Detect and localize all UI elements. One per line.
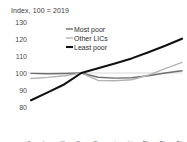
x-axis-tick-label: 2021 [109, 141, 116, 142]
x-axis-tick-label: 2017 [42, 141, 49, 142]
chart-figure: Index, 100 = 2019 8090100110120130201620… [0, 0, 187, 142]
y-axis-tick-label: 90 [19, 87, 27, 94]
chart-plot-area: 8090100110120130201620172018201920202021… [0, 0, 187, 142]
y-axis-tick-label: 120 [15, 36, 27, 43]
x-axis-tick-label: 2019 [75, 141, 82, 142]
x-axis-tick-label: 2022 [126, 141, 133, 142]
y-axis-tick-label: 130 [15, 19, 27, 26]
y-axis-tick-label: 80 [19, 104, 27, 111]
y-axis-tick-label: 100 [15, 70, 27, 77]
legend-label: Other LICs [74, 35, 108, 42]
x-axis-tick-label: 2024f [159, 141, 166, 142]
x-axis-tick-label: 2020 [92, 141, 99, 142]
x-axis-tick-label: 2023f [142, 141, 149, 142]
legend-label: Most poor [74, 26, 106, 34]
x-axis-tick-label: 2025f [176, 141, 183, 142]
legend-label: Least poor [74, 44, 108, 52]
x-axis-tick-label: 2016 [25, 141, 32, 142]
y-axis-tick-label: 110 [16, 53, 27, 60]
x-axis-tick-label: 2018 [59, 141, 66, 142]
